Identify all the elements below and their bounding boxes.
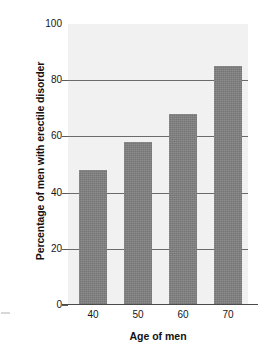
y-tick-label-80: 80 bbox=[32, 75, 62, 85]
x-tick-label-70: 70 bbox=[208, 309, 248, 320]
x-axis-line bbox=[62, 304, 258, 305]
bar-age-50 bbox=[124, 142, 152, 305]
bar-age-70 bbox=[214, 66, 242, 305]
plot-area bbox=[68, 24, 248, 305]
y-tick-label-60: 60 bbox=[32, 131, 62, 141]
y-tick-label-0: 0 bbox=[32, 300, 62, 310]
scan-artifact-mark bbox=[1, 312, 10, 314]
y-axis-ticks: 100 80 60 40 20 0 bbox=[28, 0, 62, 357]
y-tick-label-100: 100 bbox=[32, 19, 62, 29]
bar-age-40 bbox=[79, 170, 107, 305]
x-axis-title: Age of men bbox=[68, 330, 248, 342]
x-axis-ticks: 40 50 60 70 bbox=[68, 309, 248, 325]
bar-chart-figure: Percentage of men with erectile disorder… bbox=[0, 0, 269, 357]
x-tick-label-40: 40 bbox=[73, 309, 113, 320]
y-tick-label-20: 20 bbox=[32, 244, 62, 254]
x-tick-label-50: 50 bbox=[118, 309, 158, 320]
y-tick-label-40: 40 bbox=[32, 188, 62, 198]
x-tick-label-60: 60 bbox=[163, 309, 203, 320]
bar-age-60 bbox=[169, 114, 197, 305]
